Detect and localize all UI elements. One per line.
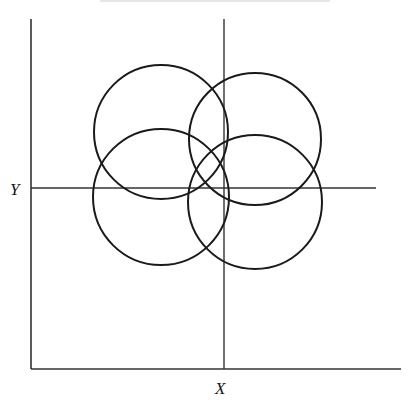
circle-top-left	[94, 65, 228, 199]
x-axis-label: X	[214, 379, 226, 398]
cropped-caption-remnant	[100, 0, 330, 2]
diagram-canvas: Y X	[0, 0, 415, 409]
circle-bottom-left	[93, 129, 229, 265]
circles-group	[93, 65, 322, 269]
y-axis-label: Y	[10, 180, 21, 199]
circle-bottom-right	[188, 135, 322, 269]
circle-top-right	[189, 73, 321, 205]
